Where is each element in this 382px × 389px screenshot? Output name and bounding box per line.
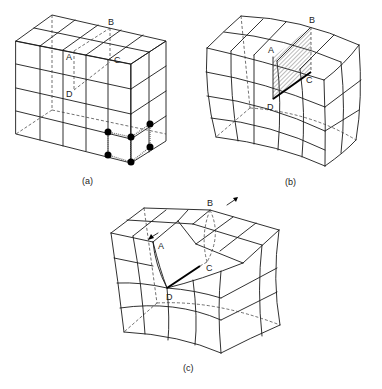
panel-a-top-face — [16, 15, 166, 64]
panel-c-label-c: C — [206, 263, 213, 273]
panel-b-label-b: B — [309, 15, 315, 25]
atom — [128, 159, 135, 166]
panel-b-label-c: C — [306, 75, 313, 85]
panel-c-dislocation-line — [167, 266, 200, 288]
panel-b-plane-abcd — [273, 27, 311, 99]
panel-c-arrow-b — [227, 197, 238, 205]
panel-a-label-a: A — [66, 52, 72, 62]
panel-b: A B C D (b) — [206, 15, 361, 187]
panel-a-label-c: C — [114, 55, 121, 65]
panel-c-caption: (c) — [183, 363, 194, 373]
panel-a: A B C D (a) — [16, 15, 166, 186]
panel-c-front-face — [111, 233, 243, 353]
panel-b-label-a: A — [268, 45, 274, 55]
atom — [128, 134, 135, 141]
panel-a-atoms-springs — [105, 121, 154, 166]
panel-a-label-d: D — [66, 89, 73, 99]
panel-c-label-d: D — [166, 292, 173, 302]
atom — [147, 144, 154, 151]
panel-b-label-d: D — [267, 102, 274, 112]
panel-c-right-face — [221, 230, 280, 353]
dislocation-figure: A B C D (a) — [0, 0, 382, 389]
panel-a-label-b: B — [108, 17, 114, 27]
panel-c-label-a: A — [158, 241, 164, 251]
panel-c: A B C D (c) — [111, 197, 280, 373]
panel-b-caption: (b) — [285, 177, 296, 187]
atom — [105, 152, 112, 159]
panel-a-caption: (a) — [82, 176, 93, 186]
panel-c-label-b: B — [207, 198, 213, 208]
atom — [147, 121, 154, 128]
atom — [105, 129, 112, 136]
